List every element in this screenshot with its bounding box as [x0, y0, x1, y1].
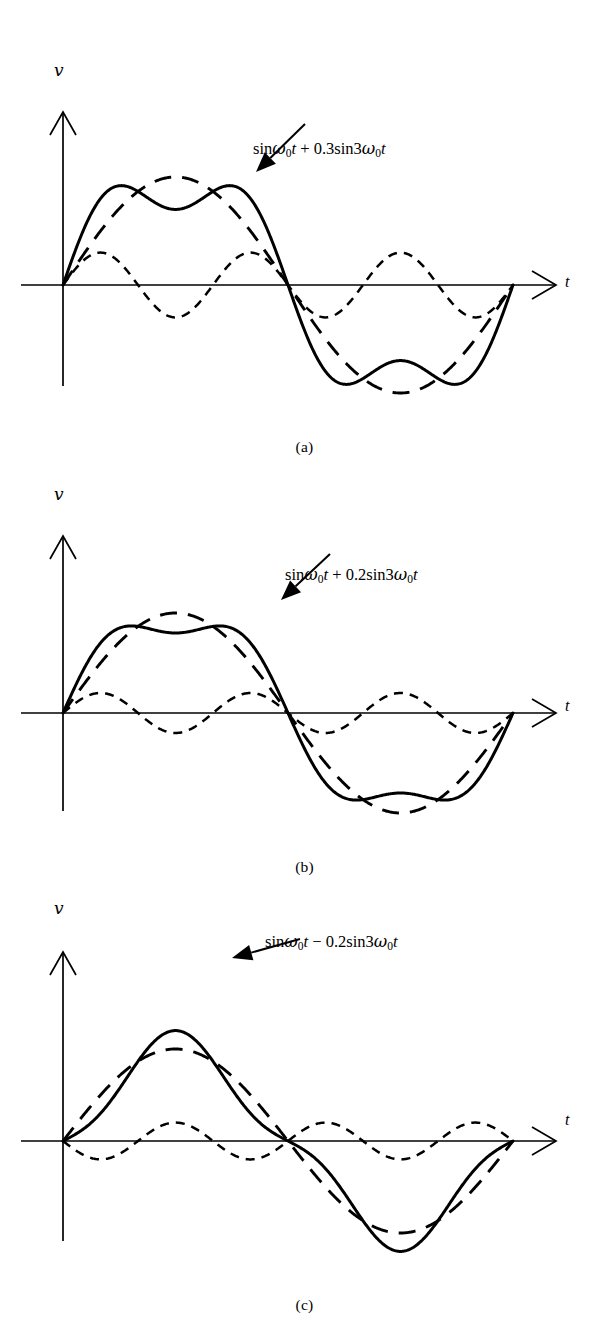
panel-caption-a: (a)	[0, 438, 609, 456]
x-axis-label-a: t	[565, 274, 569, 290]
waveform-figure: sinω0t + 0.3sin3ω0t v t (a) sinω0t + 0.2…	[0, 0, 609, 1333]
equation-text-a: sinω0t + 0.3sin3ω0t	[253, 139, 386, 158]
panel-caption-b: (b)	[0, 858, 609, 876]
panel-b: sinω0t + 0.2sin3ω0t v t (b)	[0, 466, 609, 886]
panel-c: sinω0t − 0.2sin3ω0t v t (c)	[0, 886, 609, 1333]
equation-text-b: sinω0t + 0.2sin3ω0t	[285, 565, 418, 584]
x-axis-label-c: t	[565, 1112, 569, 1128]
panel-a: sinω0t + 0.3sin3ω0t v t (a)	[0, 46, 609, 466]
y-axis-label-b: v	[54, 486, 64, 503]
equation-label-b: sinω0t + 0.2sin3ω0t	[285, 567, 418, 585]
x-axis-label-b: t	[565, 698, 569, 714]
panel-caption-c: (c)	[0, 1296, 609, 1314]
y-axis-label-c: v	[54, 900, 64, 917]
equation-pointer-c-head	[232, 945, 253, 960]
y-axis-label-a: v	[54, 62, 64, 79]
equation-label-c: sinω0t − 0.2sin3ω0t	[265, 934, 398, 952]
panel-b-plot	[0, 466, 609, 856]
equation-text-c: sinω0t − 0.2sin3ω0t	[265, 932, 398, 951]
equation-label-a: sinω0t + 0.3sin3ω0t	[253, 141, 386, 159]
panel-a-plot	[0, 46, 609, 436]
